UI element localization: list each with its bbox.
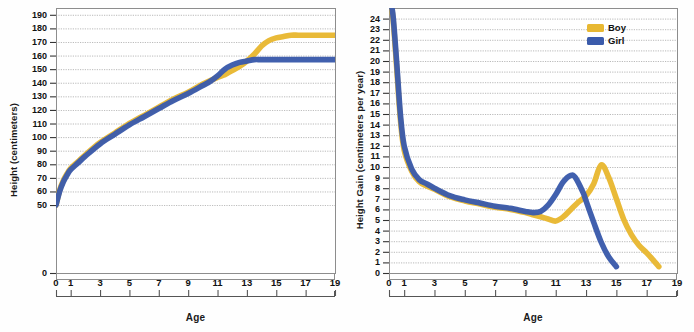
y-tick-label: 6 [375, 205, 380, 214]
y-tick-label: 100 [32, 133, 47, 142]
legend-swatch-girl [587, 37, 604, 45]
y-tick-label: 110 [32, 120, 47, 129]
legend-label: Boy [608, 22, 626, 33]
y-tick-label: 1 [375, 258, 380, 267]
x-tick-label: 15 [604, 278, 628, 288]
y-tick-label: 0 [42, 269, 47, 278]
y-tick-label: 170 [32, 38, 47, 47]
y-tick-label: 120 [32, 106, 47, 115]
legend-item: Boy [587, 22, 626, 33]
x-tick-label: 11 [206, 278, 230, 288]
y-tick-label: 130 [32, 92, 47, 101]
x-tick-label: 5 [117, 278, 141, 288]
y-tick-label: 19 [370, 68, 380, 77]
y-tick-label: 11 [370, 152, 380, 161]
y-tick-label: 7 [375, 195, 380, 204]
legend-item: Girl [587, 35, 626, 46]
x-tick-label: 1 [59, 278, 83, 288]
y-tick-label: 10 [370, 163, 380, 172]
x-tick-label: 19 [323, 278, 347, 288]
x-axis-title: Age [389, 312, 677, 323]
x-tick-label: 7 [483, 278, 507, 288]
x-tick-label: 3 [88, 278, 112, 288]
y-tick-label: 70 [37, 174, 47, 183]
height-chart-panel: Height (centimeters) Age 050607080901001… [0, 0, 347, 332]
y-tick-label: 2 [375, 248, 380, 257]
x-tick-label: 13 [235, 278, 259, 288]
y-tick-label: 13 [370, 131, 380, 140]
y-tick-label: 15 [370, 110, 380, 119]
chart-legend: BoyGirl [587, 22, 626, 46]
y-tick-label: 5 [375, 216, 380, 225]
y-tick-label: 14 [370, 121, 380, 130]
y-tick-label: 140 [32, 79, 47, 88]
y-tick-label: 80 [37, 160, 47, 169]
y-tick-label: 22 [370, 36, 380, 45]
y-tick-label: 24 [370, 15, 380, 24]
x-tick-label: 17 [294, 278, 318, 288]
y-tick-label: 16 [370, 99, 380, 108]
legend-swatch-boy [587, 24, 604, 32]
y-tick-label: 20 [370, 57, 380, 66]
y-tick-label: 3 [375, 237, 380, 246]
y-tick-label: 18 [370, 78, 380, 87]
y-tick-label: 160 [32, 52, 47, 61]
y-tick-label: 60 [37, 187, 47, 196]
y-tick-label: 23 [370, 25, 380, 34]
x-tick-label: 3 [422, 278, 446, 288]
y-tick-label: 8 [375, 184, 380, 193]
y-tick-label: 190 [32, 11, 47, 20]
x-tick-label: 13 [574, 278, 598, 288]
y-tick-label: 12 [370, 142, 380, 151]
y-tick-label: 9 [375, 174, 380, 183]
y-tick-label: 90 [37, 147, 47, 156]
x-tick-label: 17 [635, 278, 659, 288]
y-tick-label: 21 [370, 46, 380, 55]
x-tick-label: 9 [176, 278, 200, 288]
y-tick-label: 0 [375, 269, 380, 278]
y-tick-label: 50 [37, 201, 47, 210]
x-tick-label: 1 [392, 278, 416, 288]
legend-label: Girl [608, 35, 624, 46]
x-tick-label: 15 [264, 278, 288, 288]
x-tick-label: 19 [665, 278, 689, 288]
y-tick-label: 17 [370, 89, 380, 98]
x-tick-label: 9 [513, 278, 537, 288]
height-gain-chart-panel: Height Gain (centimeters per year) Age B… [347, 0, 694, 332]
y-tick-label: 150 [32, 65, 47, 74]
growth-charts-figure: Height (centimeters) Age 050607080901001… [0, 0, 694, 332]
y-tick-label: 4 [375, 227, 380, 236]
x-tick-label: 5 [453, 278, 477, 288]
x-tick-label: 11 [544, 278, 568, 288]
y-tick-label: 180 [32, 24, 47, 33]
x-axis-title: Age [56, 312, 335, 323]
x-tick-label: 7 [147, 278, 171, 288]
